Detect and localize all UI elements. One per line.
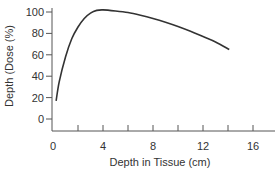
y-tick-label: 60 [32, 49, 44, 61]
x-tick-label: 16 [247, 140, 259, 152]
dose-curve [56, 10, 229, 101]
y-axis-label: Depth (Dose (%) [3, 25, 15, 107]
y-tick-label: 0 [38, 113, 44, 125]
x-tick-label: 8 [150, 140, 156, 152]
y-tick-label: 40 [32, 70, 44, 82]
x-tick-label: 0 [50, 140, 56, 152]
y-tick-label: 20 [32, 92, 44, 104]
x-tick-label: 12 [197, 140, 209, 152]
y-tick-label: 100 [26, 6, 44, 18]
x-axis-label: Depth in Tissue (cm) [110, 156, 211, 168]
depth-dose-chart: 020406080100 0481216 Depth in Tissue (cm… [0, 0, 279, 173]
x-axis: 0481216 [50, 125, 275, 152]
y-axis: 020406080100 [26, 6, 52, 131]
y-tick-label: 80 [32, 27, 44, 39]
x-tick-label: 4 [100, 140, 106, 152]
